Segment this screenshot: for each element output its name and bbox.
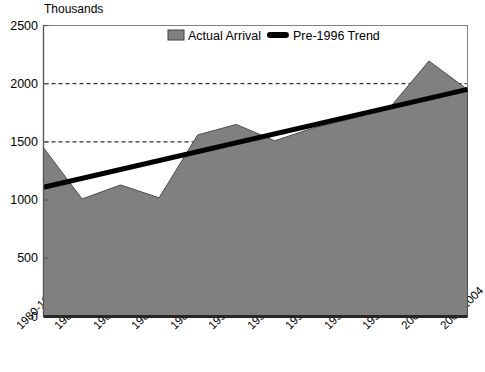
legend-swatch-actual-arrival: [168, 30, 184, 40]
legend-label-pre-1996-trend: Pre-1996 Trend: [293, 29, 380, 43]
legend-swatch-pre-1996-trend: [267, 32, 289, 38]
legend-label-actual-arrival: Actual Arrival: [188, 29, 261, 43]
